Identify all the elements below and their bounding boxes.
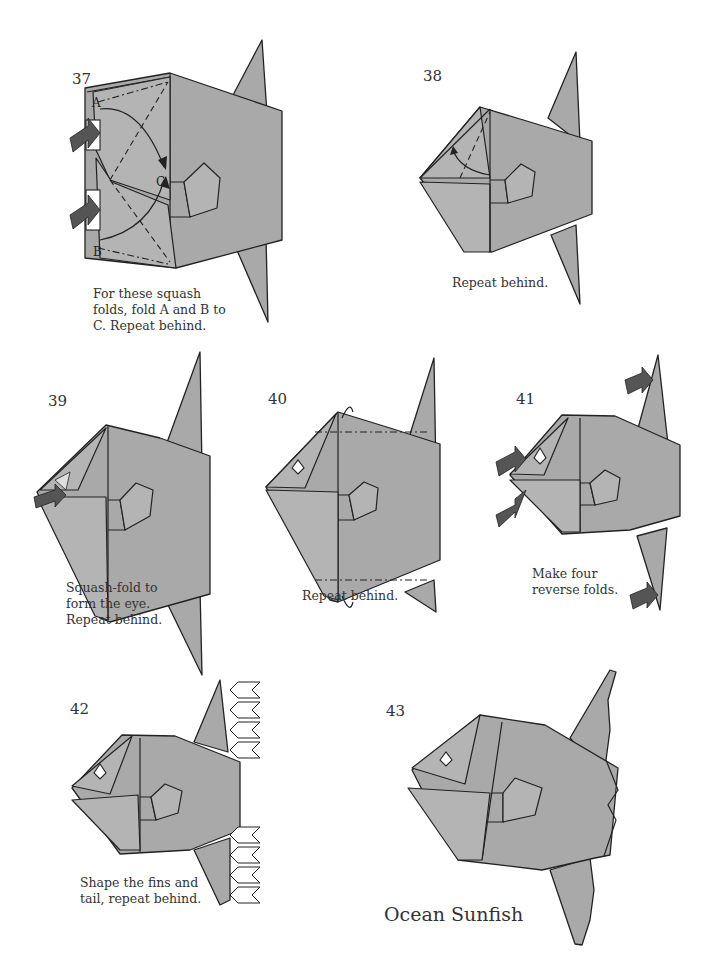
- step-caption: Repeat behind.: [452, 275, 548, 291]
- label-c: C: [156, 175, 165, 189]
- fold-diagram-37: A B C: [0, 0, 290, 330]
- step-caption: For these squash folds, fold A and B to …: [93, 286, 226, 334]
- step-caption: Shape the fins and tail, repeat behind.: [80, 875, 201, 907]
- final-title: Ocean Sunfish: [384, 903, 523, 925]
- step-caption: Repeat behind.: [302, 588, 398, 604]
- step-caption: Make four reverse folds.: [532, 566, 618, 598]
- step-43: 43 Ocean Sunfish: [370, 660, 670, 960]
- step-38: 38 Repeat behind.: [380, 0, 680, 330]
- label-b: B: [93, 245, 102, 259]
- step-caption: Squash-fold to form the eye. Repeat behi…: [66, 580, 162, 628]
- step-41: 41 Make four reverse folds.: [480, 340, 720, 630]
- fold-diagram-40: [250, 340, 480, 630]
- step-39: 39 Squash-fold to form the eye. Repeat b…: [0, 340, 240, 630]
- step-42: 42 Shape the fins and tail, repeat behin…: [50, 660, 290, 920]
- label-a: A: [91, 96, 101, 110]
- step-40: 40 Repeat behind.: [250, 340, 480, 630]
- step-37: 37 A B C For these squash: [0, 0, 290, 330]
